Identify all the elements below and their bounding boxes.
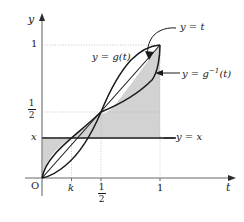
g-inverse-exponent: −1	[209, 66, 220, 75]
x-tick-label-k: k	[68, 183, 74, 193]
x-axis-label: t	[226, 182, 230, 193]
y-tick-half-denominator: 2	[25, 111, 38, 120]
curve-label-g: y = g(t)	[92, 52, 131, 62]
y-tick-label-1: 1	[31, 39, 37, 49]
y-axis-label: y	[28, 14, 34, 25]
y-tick-half-numerator: 1	[25, 99, 38, 108]
x-tick-label-1: 1	[157, 183, 163, 193]
curve-label-g-inverse: y = g−1(t)	[182, 67, 231, 79]
g-inverse-prefix: y = g	[182, 68, 209, 79]
curve-label-identity: y = t	[180, 22, 204, 32]
origin-label: O	[31, 181, 39, 191]
y-tick-label-x: x	[31, 132, 37, 142]
x-tick-half-denominator: 2	[95, 195, 108, 204]
curve-label-horizontal: y = x	[176, 132, 202, 142]
x-tick-half-numerator: 1	[95, 183, 108, 192]
y-axis-arrow	[39, 13, 45, 21]
g-inverse-suffix: (t)	[219, 68, 231, 79]
y-tick-label-half: 1 2	[25, 99, 38, 120]
x-tick-label-half: 1 2	[95, 183, 108, 204]
